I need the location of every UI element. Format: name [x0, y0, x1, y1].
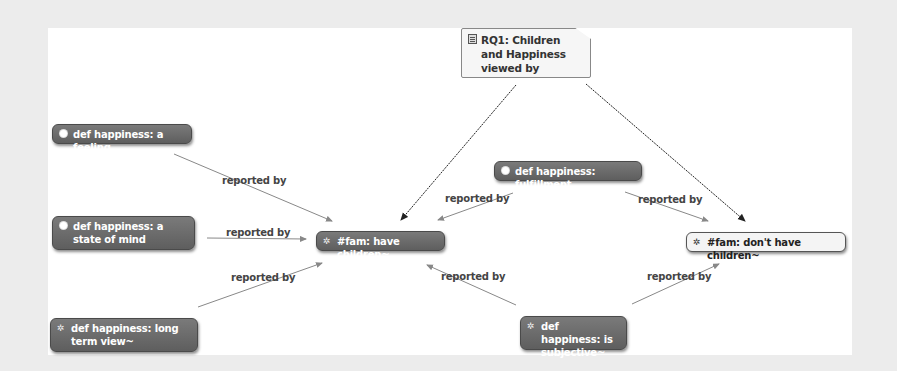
- code-dot-icon: [59, 129, 69, 139]
- edge-label: reported by: [638, 194, 702, 205]
- node-label: def happiness: is subjective~: [541, 320, 620, 359]
- network-canvas[interactable]: [48, 28, 852, 355]
- node-def-happiness-is-subjective[interactable]: ✲ def happiness: is subjective~: [520, 316, 627, 350]
- node-def-happiness-feeling[interactable]: def happiness: a feeling: [52, 124, 192, 144]
- node-rq1-memo[interactable]: RQ1: Children and Happiness viewed by pa…: [461, 28, 591, 78]
- node-label: #fam: don't have children~: [707, 236, 839, 262]
- node-fam-dont-have-children[interactable]: ✲ #fam: don't have children~: [686, 232, 846, 252]
- node-fam-have-children[interactable]: ✲ #fam: have children~: [316, 231, 445, 251]
- node-def-happiness-fulfillment[interactable]: def happiness: fulfillment: [494, 161, 642, 181]
- edge-label: reported by: [222, 175, 286, 186]
- node-label: def happiness: a feeling: [73, 128, 185, 154]
- edge-label: reported by: [441, 271, 505, 282]
- network-icon: ✲: [323, 236, 333, 246]
- node-label: def happiness: long term view~: [71, 322, 191, 348]
- code-dot-icon: [59, 221, 69, 231]
- network-icon: ✲: [57, 323, 67, 333]
- node-label: #fam: have children~: [337, 235, 438, 261]
- memo-icon: [468, 34, 477, 44]
- edge-label: reported by: [647, 271, 711, 282]
- edge-label: reported by: [445, 193, 509, 204]
- edge-label: reported by: [226, 227, 290, 238]
- edge-label: reported by: [231, 272, 295, 283]
- code-dot-icon: [501, 166, 511, 176]
- network-icon: ✲: [693, 237, 703, 247]
- node-def-happiness-state-of-mind[interactable]: def happiness: a state of mind: [52, 216, 195, 250]
- node-label: def happiness: a state of mind: [73, 220, 188, 246]
- node-label: def happiness: fulfillment: [515, 165, 635, 191]
- network-icon: ✲: [527, 321, 537, 331]
- node-def-happiness-long-term-view[interactable]: ✲ def happiness: long term view~: [50, 318, 198, 352]
